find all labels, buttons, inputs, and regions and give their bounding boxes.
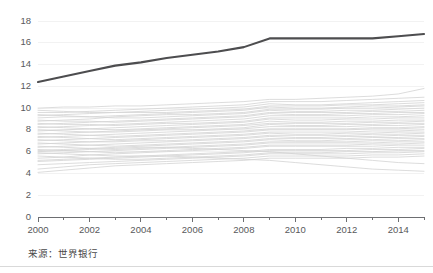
- y-tick-label: 6: [26, 145, 31, 156]
- x-tick-label: 2002: [79, 224, 100, 235]
- y-tick-label: 16: [20, 36, 31, 47]
- x-tick-label: 2012: [336, 224, 357, 235]
- x-tick-label: 2004: [130, 224, 151, 235]
- chart-footer: 来源：世界银行: [0, 237, 433, 273]
- x-tick-label: 2010: [285, 224, 306, 235]
- x-tick-label: 2006: [182, 224, 203, 235]
- y-tick-label: 8: [26, 123, 31, 134]
- x-tick-label: 2014: [388, 224, 409, 235]
- y-tick-label: 12: [20, 80, 31, 91]
- y-tick-label: 18: [20, 15, 31, 26]
- axes: [38, 217, 424, 222]
- x-tick-label: 2000: [27, 224, 48, 235]
- line-chart-plot: 024681012141618 200020022004200620082010…: [0, 0, 433, 273]
- footer-divider: [0, 266, 433, 267]
- y-tick-label: 0: [26, 211, 31, 222]
- source-note: 来源：世界银行: [28, 246, 98, 260]
- y-axis-tick-labels: 024681012141618: [20, 15, 31, 222]
- chart-container: 024681012141618 200020022004200620082010…: [0, 0, 433, 273]
- highlighted-series-line: [38, 34, 424, 82]
- y-tick-label: 4: [26, 167, 31, 178]
- x-axis-tick-labels: 20002002200420062008201020122014: [27, 224, 408, 235]
- y-tick-label: 10: [20, 102, 31, 113]
- y-tick-label: 2: [26, 189, 31, 200]
- x-tick-label: 2008: [233, 224, 254, 235]
- background-series-lines: [38, 89, 424, 173]
- y-tick-label: 14: [20, 58, 31, 69]
